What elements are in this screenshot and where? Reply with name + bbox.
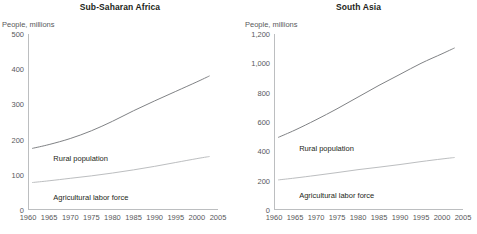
series-line: [278, 48, 454, 137]
x-tick-label: 1980: [350, 213, 367, 222]
series-lines: [274, 34, 463, 210]
x-tick-label: 1960: [20, 213, 37, 222]
x-tick-label: 2005: [455, 213, 472, 222]
y-tick-label: 100: [11, 170, 24, 179]
x-tick-label: 1995: [167, 213, 184, 222]
two-panel-line-chart-figure: Sub-Saharan Africa People, millions 0100…: [0, 0, 477, 234]
y-tick-label: 200: [257, 176, 270, 185]
x-tick-label: 1985: [371, 213, 388, 222]
x-tick-label: 1980: [104, 213, 121, 222]
x-tick-label: 1960: [266, 213, 283, 222]
y-tick-label: 1,200: [251, 30, 270, 39]
y-tick-label: 400: [257, 147, 270, 156]
series-lines: [28, 34, 218, 210]
series-line: [32, 76, 209, 149]
y-tick-label: 600: [257, 118, 270, 127]
x-tick-label: 1990: [146, 213, 163, 222]
y-tick-label: 300: [11, 100, 24, 109]
x-tick-label: 2000: [434, 213, 451, 222]
y-tick-label: 500: [11, 30, 24, 39]
panel-title: Sub-Saharan Africa: [0, 2, 240, 12]
x-tick-label: 2000: [189, 213, 206, 222]
x-tick-label: 1995: [413, 213, 430, 222]
series-annotation-label: Agricultural labor force: [299, 191, 374, 200]
y-axis-caption: People, millions: [2, 20, 55, 29]
x-tick-label: 1975: [83, 213, 100, 222]
panel-title: South Asia: [240, 2, 477, 12]
x-tick-label: 1965: [287, 213, 304, 222]
plot-area: 02004006008001,0001,200 1960196519701975…: [274, 34, 463, 210]
plot-area: 0100200300400500 19601965197019751980198…: [28, 34, 218, 210]
x-tick-label: 1990: [392, 213, 409, 222]
x-tick-label: 2005: [210, 213, 227, 222]
series-annotation-label: Rural population: [53, 154, 108, 163]
chart-panel-south-asia: South Asia People, millions 020040060080…: [240, 0, 477, 234]
x-tick-label: 1985: [125, 213, 142, 222]
x-tick-label: 1965: [41, 213, 58, 222]
series-line: [278, 157, 454, 179]
x-tick-label: 1975: [329, 213, 346, 222]
chart-panel-sub-saharan-africa: Sub-Saharan Africa People, millions 0100…: [0, 0, 240, 234]
x-tick-label: 1970: [308, 213, 325, 222]
y-tick-label: 1,000: [251, 59, 270, 68]
y-axis-caption: People, millions: [245, 20, 298, 29]
x-tick-label: 1970: [62, 213, 79, 222]
y-tick-label: 800: [257, 88, 270, 97]
series-annotation-label: Rural population: [299, 144, 354, 153]
y-tick-label: 400: [11, 65, 24, 74]
y-tick-label: 200: [11, 135, 24, 144]
series-annotation-label: Agricultural labor force: [53, 193, 128, 202]
